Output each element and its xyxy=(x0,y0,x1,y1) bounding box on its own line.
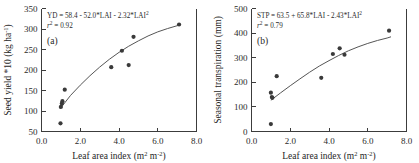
panel-a-x-axis-title-a: Leaf area index (m xyxy=(72,151,145,162)
panel-b-r2: r2 = 0.79 xyxy=(257,20,283,30)
panel-a-fit-curve xyxy=(60,24,181,108)
panel-a-y-tick-label: 100 xyxy=(24,106,38,116)
data-point xyxy=(127,63,131,67)
data-point xyxy=(386,29,390,33)
data-point xyxy=(337,46,341,50)
panel-b-x-axis-title-a: Leaf area index (m xyxy=(282,151,355,162)
panel-b-x-tick-label: 8.0 xyxy=(400,136,412,146)
panel-b-x-tick-label: 6.0 xyxy=(362,136,374,146)
data-point xyxy=(63,88,67,92)
panel-a-y-axis-title-a: Seed yield *10 (kg ha xyxy=(3,32,14,116)
panel-a-y-ticks: 50100150200250300350 xyxy=(24,4,46,137)
panel-a-y-axis-title-b: ) xyxy=(3,24,14,27)
panel-a-x-tick-label: 2.0 xyxy=(75,136,87,146)
panel-a-y-tick-label: 300 xyxy=(24,24,38,34)
panel-a-label: (a) xyxy=(47,36,58,47)
data-point xyxy=(319,76,323,80)
data-point xyxy=(330,52,334,56)
data-point xyxy=(270,96,274,100)
panel-b-r2-value: = 0.79 xyxy=(262,22,283,30)
panel-b-fit-curve xyxy=(270,37,390,100)
panel-b-y-tick-label: 300 xyxy=(234,53,248,63)
panel-b-x-tick-label: 4.0 xyxy=(323,136,335,146)
data-point xyxy=(268,91,272,95)
panel-b-equation: STP = 63.5 + 65.8*LAI - 2.43*LAI2 xyxy=(257,10,362,20)
panel-b-x-axis-title-c: ) xyxy=(372,151,375,162)
data-point xyxy=(131,35,135,39)
panel-b-x-ticks: 0.02.04.06.08.0 xyxy=(245,128,412,146)
panel-a-x-axis-title-c: ) xyxy=(163,151,166,162)
panel-a-plot: 50100150200250300350 0.02.04.06.08.0 YD … xyxy=(0,0,209,163)
panel-a-r2: r2 = 0.92 xyxy=(47,20,73,30)
panel-a-equation: YD = 58.4 - 52.0*LAI - 2.32*LAI2 xyxy=(47,10,149,20)
panel-a-x-tick-label: 6.0 xyxy=(152,136,164,146)
panel-b-equation-body: STP = 63.5 + 65.8*LAI - 2.43*LAI xyxy=(257,12,360,20)
panel-a-x-tick-label: 4.0 xyxy=(113,136,125,146)
panel-a-data-points xyxy=(58,22,181,125)
panel-b-y-tick-label: 200 xyxy=(234,77,248,87)
panel-a-x-tick-label: 0.0 xyxy=(36,136,48,146)
panel-a-fit-curve-group xyxy=(60,24,181,108)
data-point xyxy=(342,53,346,57)
data-point xyxy=(120,49,124,53)
panel-a: 50100150200250300350 0.02.04.06.08.0 YD … xyxy=(0,0,210,163)
panel-b-label: (b) xyxy=(257,36,268,47)
panel-a-y-axis-title: Seed yield *10 (kg ha-1) xyxy=(2,24,14,115)
panel-b-y-tick-label: 500 xyxy=(234,4,248,14)
panel-b-y-tick-label: 100 xyxy=(234,102,248,112)
data-point xyxy=(109,65,113,69)
data-point xyxy=(58,121,62,125)
panel-a-x-tick-label: 8.0 xyxy=(191,136,203,146)
panel-b-y-axis-title: Seasonal transpiration (mm) xyxy=(213,16,224,124)
panel-a-y-tick-label: 350 xyxy=(24,4,38,14)
panel-a-y-tick-label: 200 xyxy=(24,65,38,75)
panel-b-equation-exponent: 2 xyxy=(359,10,362,16)
data-point xyxy=(274,74,278,78)
data-point xyxy=(177,22,181,26)
panel-b-plot: 0100200300400500 0.02.04.06.08.0 STP = 6… xyxy=(210,0,419,163)
panel-a-x-ticks: 0.02.04.06.08.0 xyxy=(36,128,203,146)
panel-b-y-axis-title-a: Seasonal transpiration (mm) xyxy=(213,16,224,124)
panel-a-x-axis-title: Leaf area index (m2 m-2) xyxy=(72,150,165,162)
panel-b-x-axis-title: Leaf area index (m2 m-2) xyxy=(282,150,375,162)
panel-a-equation-exponent: 2 xyxy=(146,10,149,16)
panel-a-r2-value: = 0.92 xyxy=(53,22,74,30)
panel-b-x-tick-label: 2.0 xyxy=(284,136,296,146)
panel-b-y-ticks: 0100200300400500 xyxy=(234,4,256,137)
panel-b-y-tick-label: 400 xyxy=(234,28,248,38)
panel-a-y-tick-label: 250 xyxy=(24,45,38,55)
panel-a-equation-body: YD = 58.4 - 52.0*LAI - 2.32*LAI xyxy=(47,12,146,20)
data-point xyxy=(268,122,272,126)
panel-b-fit-curve-group xyxy=(270,37,390,100)
panel-b-x-tick-label: 0.0 xyxy=(245,136,257,146)
figure-container: 50100150200250300350 0.02.04.06.08.0 YD … xyxy=(0,0,419,163)
panel-b: 0100200300400500 0.02.04.06.08.0 STP = 6… xyxy=(210,0,419,163)
panel-a-y-tick-label: 150 xyxy=(24,86,38,96)
data-point xyxy=(60,99,64,103)
panel-b-data-points xyxy=(268,29,390,127)
